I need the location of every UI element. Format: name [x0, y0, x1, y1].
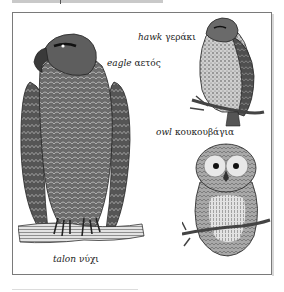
owl-label-greek: κουκουβάγια — [175, 127, 234, 137]
hawk-label: hawk γεράκι — [138, 33, 196, 42]
hawk-label-english: hawk — [138, 32, 162, 42]
hawk-illustration — [188, 16, 268, 128]
owl-label: owl κουκουβάγια — [156, 128, 234, 137]
header-bar-marker — [60, 0, 61, 4]
owl-illustration — [182, 142, 272, 260]
frame-shadow — [272, 14, 274, 276]
talon-label-greek: νύχι — [79, 254, 99, 264]
talon-label: talon νύχι — [53, 255, 99, 264]
eagle-label-english: eagle — [107, 58, 132, 68]
eagle-label: eagle αετός — [107, 59, 161, 68]
bottom-rule — [12, 289, 138, 290]
eagle-label-greek: αετός — [135, 58, 161, 68]
header-bar — [12, 0, 163, 3]
talon-label-english: talon — [53, 254, 76, 264]
hawk-label-greek: γεράκι — [165, 32, 196, 42]
owl-label-english: owl — [156, 127, 172, 137]
